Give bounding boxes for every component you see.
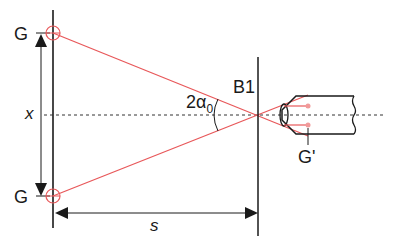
label-object-bottom: G <box>14 188 28 206</box>
diagram-canvas <box>0 0 397 242</box>
image-point-bottom-icon <box>306 123 311 128</box>
label-object-top: G <box>14 25 28 43</box>
ray-top <box>53 33 308 136</box>
angle-subscript: 0 <box>206 102 213 116</box>
height-arrow-down-icon <box>35 183 47 196</box>
distance-arrow-right-icon <box>245 207 258 219</box>
angle-symbol: 2α <box>186 92 206 112</box>
label-aperture: B1 <box>233 78 255 96</box>
label-distance: s <box>150 217 159 234</box>
distance-arrow-left-icon <box>55 207 68 219</box>
label-image: G' <box>298 148 315 166</box>
ray-bottom <box>53 95 308 196</box>
label-height: x <box>25 105 34 122</box>
height-arrow-up-icon <box>35 34 47 47</box>
label-angle: 2α0 <box>186 93 213 115</box>
image-point-top-icon <box>306 104 311 109</box>
